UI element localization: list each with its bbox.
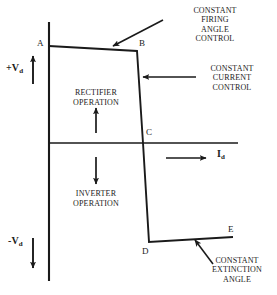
vertex-label-a: A (37, 38, 44, 48)
extinction-angle-line3: ANGLE (197, 275, 277, 284)
vertex-label-d: D (142, 246, 149, 256)
current-control-line3: CONTROL (190, 83, 274, 92)
id-subscript: d (221, 153, 225, 161)
negative-vd-subscript: d (19, 240, 23, 248)
positive-vd-axis-label: +Vd (6, 62, 23, 74)
positive-vd-text: +V (6, 62, 19, 73)
constant-extinction-angle-annotation: CONSTANT EXTINCTION ANGLE (197, 256, 277, 284)
negative-vd-axis-label: -Vd (8, 235, 23, 247)
firing-angle-line2: FIRING (172, 15, 258, 24)
rectifier-operation-line1: RECTIFIER (57, 88, 135, 98)
vertex-label-c: C (146, 127, 152, 137)
positive-vd-subscript: d (19, 67, 23, 75)
firing-angle-annotation-arrow-icon (113, 20, 163, 46)
current-control-line2: CURRENT (190, 73, 274, 82)
firing-angle-line1: CONSTANT (172, 6, 258, 15)
constant-current-control-annotation: CONSTANT CURRENT CONTROL (190, 64, 274, 92)
vertex-label-e: E (228, 224, 234, 234)
vertex-label-b: B (139, 38, 145, 48)
inverter-operation-label: INVERTER OPERATION (57, 189, 135, 208)
extinction-angle-line2: EXTINCTION (197, 265, 277, 274)
id-axis-label: Id (217, 148, 225, 160)
firing-angle-line3: ANGLE (172, 25, 258, 34)
firing-angle-line4: CONTROL (172, 34, 258, 43)
converter-characteristic-figure: A B C D E +Vd -Vd Id RECTIFIER OPERATION… (0, 0, 277, 295)
rectifier-operation-label: RECTIFIER OPERATION (57, 88, 135, 107)
extinction-angle-line1: CONSTANT (197, 256, 277, 265)
inverter-operation-line2: OPERATION (57, 199, 135, 209)
rectifier-operation-line2: OPERATION (57, 98, 135, 108)
negative-vd-text: -V (8, 235, 19, 246)
current-control-line1: CONSTANT (190, 64, 274, 73)
inverter-operation-line1: INVERTER (57, 189, 135, 199)
constant-firing-angle-control-annotation: CONSTANT FIRING ANGLE CONTROL (172, 6, 258, 44)
